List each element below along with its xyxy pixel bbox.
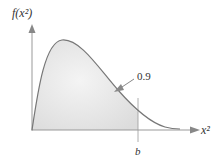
y-axis-arrow-icon bbox=[29, 24, 36, 33]
area-label: 0.9 bbox=[137, 70, 151, 82]
x-axis-label: x² bbox=[200, 123, 210, 137]
shaded-area bbox=[32, 40, 138, 130]
cutoff-label: b bbox=[135, 145, 141, 157]
y-axis-label: f(x²) bbox=[12, 6, 32, 20]
x-axis-arrow-icon bbox=[190, 127, 200, 134]
chi-square-diagram: f(x²) x² 0.9 b bbox=[0, 0, 216, 162]
